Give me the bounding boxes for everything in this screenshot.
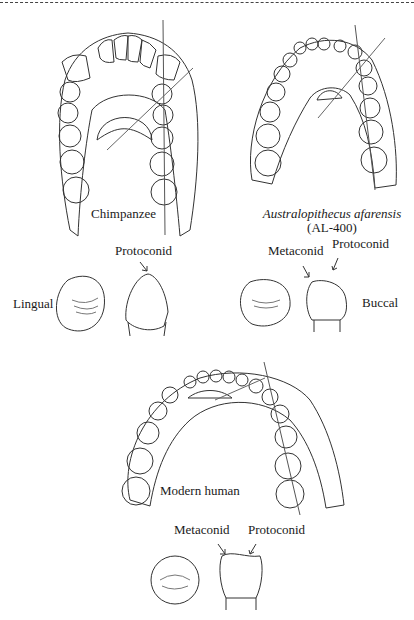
label-chimpanzee: Chimpanzee <box>91 206 156 222</box>
label-human-metaconid: Metaconid <box>174 522 230 538</box>
label-chimp-protoconid: Protoconid <box>115 243 172 259</box>
label-lingual: Lingual <box>13 296 53 312</box>
label-al400: (AL-400) <box>262 220 402 236</box>
modern-human-molar-views <box>151 544 262 610</box>
australopithecus-mandible <box>250 25 396 190</box>
label-buccal: Buccal <box>362 295 398 311</box>
chimpanzee-mandible <box>58 20 198 236</box>
australopithecus-molar-views <box>240 258 346 332</box>
chimpanzee-molar-views <box>56 262 168 336</box>
label-afar-protoconid: Protoconid <box>332 236 389 252</box>
label-human-protoconid: Protoconid <box>248 522 305 538</box>
label-modern-human: Modern human <box>160 483 240 499</box>
label-afar-metaconid: Metaconid <box>268 243 324 259</box>
